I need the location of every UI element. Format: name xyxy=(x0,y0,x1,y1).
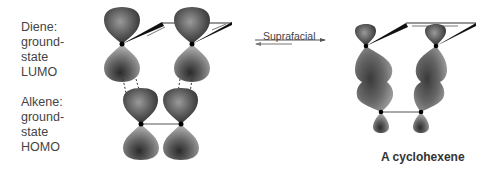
reverse-arrowhead xyxy=(255,42,261,46)
diene-lumo xyxy=(104,7,232,82)
carbon-atom xyxy=(364,44,369,49)
reaction-diagram xyxy=(0,0,496,172)
orbital-lobe-bottom xyxy=(104,44,140,82)
orbital-lobe-top xyxy=(123,88,158,124)
sigma-bond-lobe xyxy=(355,46,393,112)
orbital-lobe-bottom xyxy=(163,124,199,160)
carbon-atom xyxy=(139,122,144,127)
cyclohexene-product xyxy=(355,23,476,133)
product-label: A cyclohexene xyxy=(381,150,465,164)
carbon-atom xyxy=(419,110,424,115)
orbital-lobe-small-bottom xyxy=(413,112,429,133)
orbital-lobe-bottom xyxy=(174,44,210,82)
orbital-lobe-bottom xyxy=(123,124,159,160)
forward-arrowhead xyxy=(320,38,326,42)
orbital-lobe-small-bottom xyxy=(373,112,389,133)
carbon-atom xyxy=(190,42,195,47)
orbital-lobe-small-top xyxy=(425,24,446,46)
carbon-atom xyxy=(434,44,439,49)
alkene-homo xyxy=(123,88,199,160)
carbon-atom xyxy=(120,42,125,47)
carbon-atom xyxy=(179,122,184,127)
sigma-bond-lobe xyxy=(414,46,447,112)
orbital-lobe-top xyxy=(163,88,198,124)
orbital-lobe-top xyxy=(174,7,210,44)
carbon-atom xyxy=(379,110,384,115)
suprafacial-label: Suprafacial xyxy=(263,30,316,42)
